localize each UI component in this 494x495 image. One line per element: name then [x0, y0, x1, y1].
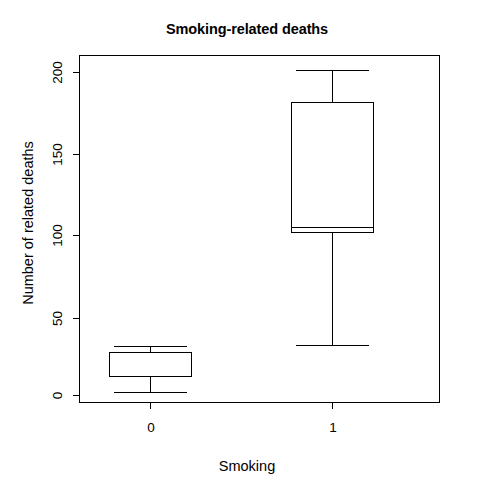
x-axis: [151, 403, 333, 410]
plot-canvas: [0, 0, 494, 495]
boxplot-figure: Smoking-related deaths Number of related…: [0, 0, 494, 495]
y-axis: [73, 56, 80, 403]
plot-frame: [80, 56, 440, 403]
boxplot-group-1: [292, 71, 374, 346]
boxplot-group-0: [110, 347, 192, 393]
box-1-iqr-rect: [292, 103, 374, 233]
box-0-iqr-rect: [110, 353, 192, 377]
